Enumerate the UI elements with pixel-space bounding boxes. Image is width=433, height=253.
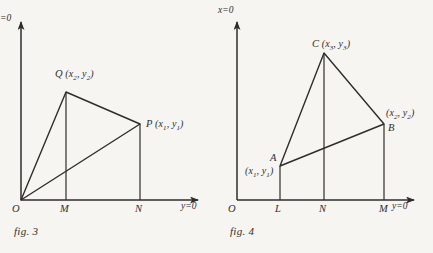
fig3-foot-label-m: M	[60, 203, 69, 214]
fig4-vertex-label-c: C (x3, y3)	[312, 38, 350, 52]
fig4-y-axis-label: x=0	[218, 6, 234, 16]
fig4-vertex-c-coords: (x3, y3)	[319, 38, 350, 49]
fig4-triangle-ACB	[280, 53, 384, 166]
fig3-triangle-OQP	[21, 92, 140, 200]
fig3-x-axis-label: y=0	[181, 202, 197, 212]
fig3-y-axis-label: =0	[0, 14, 11, 24]
fig3-caption: fig. 3	[14, 226, 38, 238]
fig3-vertex-p-coords: (x1, y1)	[153, 118, 184, 129]
fig3-vertex-label-p: P (x1, y1)	[146, 118, 184, 132]
fig3-foot-label-n: N	[135, 203, 142, 214]
figures-canvas	[0, 0, 433, 253]
fig4-foot-label-m: M	[379, 203, 388, 214]
fig4-vertex-label-b: B	[388, 122, 395, 133]
fig4-vertex-coords-a: (x1, y1)	[245, 166, 273, 179]
fig4-vertex-a-coords: (x1, y1)	[245, 165, 273, 176]
fig3-vertex-q-letter: Q	[55, 68, 63, 79]
fig4-caption: fig. 4	[230, 226, 254, 238]
fig4-triangle	[280, 53, 384, 166]
fig3-vertex-label-q: Q (x2, y2)	[55, 68, 94, 82]
fig4-x-axis-label: y=0	[392, 202, 408, 212]
fig4-vertex-label-a: A	[270, 152, 277, 163]
fig3-vertex-p-letter: P	[146, 118, 153, 129]
figure-page: =0 y=0 O M N Q (x2, y2) P (x1, y1) fig. …	[0, 0, 433, 253]
fig4-foot-label-l: L	[275, 203, 281, 214]
fig3-triangle	[21, 92, 140, 200]
fig3-vertex-q-coords: (x2, y2)	[63, 68, 94, 79]
fig4-origin-label: O	[228, 203, 236, 214]
fig4-foot-label-n: N	[319, 203, 326, 214]
fig3-origin-label: O	[12, 203, 20, 214]
fig4-vertex-b-coords: (x2, y2)	[386, 107, 414, 118]
fig4-vertex-coords-b: (x2, y2)	[386, 108, 414, 121]
